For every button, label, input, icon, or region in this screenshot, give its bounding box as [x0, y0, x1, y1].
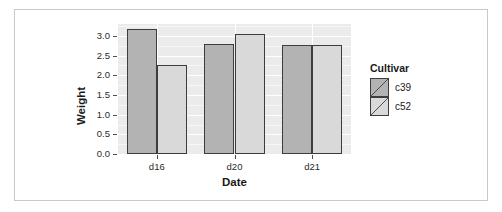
legend-entries: c39c52 — [370, 78, 470, 116]
y-tick-mark — [113, 36, 117, 37]
y-tick-label: 3.0 — [97, 31, 110, 41]
legend-entry-c39: c39 — [370, 78, 470, 97]
legend-key-c52 — [370, 97, 389, 116]
x-axis-title: Date — [118, 176, 351, 188]
bar-d16-c39 — [127, 29, 157, 154]
legend-title: Cultivar — [370, 62, 470, 74]
y-tick-mark — [113, 75, 117, 76]
x-tick-label: d20 — [205, 162, 265, 172]
bar-d21-c52 — [312, 45, 342, 155]
y-tick-label: 1.5 — [97, 90, 110, 100]
y-tick-mark — [113, 56, 117, 57]
y-tick-label: 0.5 — [97, 129, 110, 139]
y-tick-mark — [113, 134, 117, 135]
x-tick-mark — [235, 155, 236, 159]
bar-d21-c39 — [282, 45, 312, 155]
bar-d20-c52 — [235, 34, 265, 154]
chart-figure: Weight 0.00.51.01.52.02.53.0 d16d20d21 D… — [0, 0, 502, 212]
y-tick-mark — [113, 95, 117, 96]
legend-label-c39: c39 — [395, 82, 411, 93]
bar-d16-c52 — [157, 65, 187, 154]
x-tick-mark — [312, 155, 313, 159]
plot-panel — [118, 24, 351, 154]
y-tick-label: 2.0 — [97, 70, 110, 80]
bar-d20-c39 — [204, 44, 234, 154]
y-axis-title: Weight — [75, 87, 87, 125]
x-tick-label: d16 — [127, 162, 187, 172]
legend-label-c52: c52 — [395, 101, 411, 112]
legend: Cultivar c39c52 — [370, 62, 470, 116]
x-tick-label: d21 — [282, 162, 342, 172]
y-tick-label: 2.5 — [97, 51, 110, 61]
legend-entry-c52: c52 — [370, 97, 470, 116]
legend-key-c39 — [370, 78, 389, 97]
x-tick-mark — [157, 155, 158, 159]
y-tick-mark — [113, 154, 117, 155]
y-tick-label: 0.0 — [97, 149, 110, 159]
y-tick-mark — [113, 115, 117, 116]
y-tick-label: 1.0 — [97, 110, 110, 120]
